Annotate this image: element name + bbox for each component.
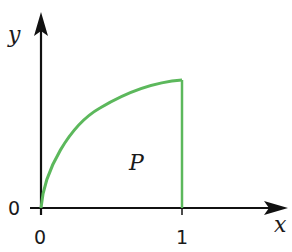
region-label: P (128, 150, 145, 175)
diagram-canvas: y x 0 0 1 P (0, 0, 292, 252)
x-tick-label-0: 0 (34, 226, 46, 248)
y-axis-label: y (7, 22, 21, 47)
y-tick-label-0: 0 (8, 197, 20, 219)
x-tick-label-1: 1 (176, 226, 188, 248)
region-curve (41, 80, 182, 208)
x-axis-label: x (274, 212, 287, 237)
